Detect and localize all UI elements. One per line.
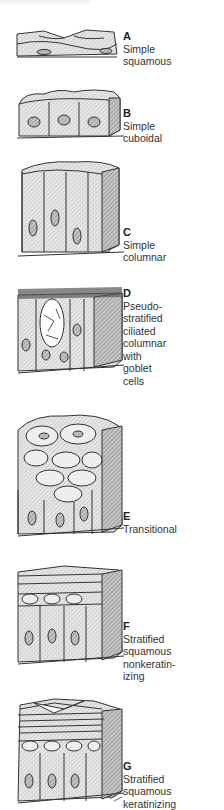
stratified-keratinizing-illustration — [14, 695, 126, 809]
label-text: Stratified squamous keratinizing — [123, 773, 176, 810]
label-text: Stratified squamous nonkeratin- izing — [123, 633, 176, 683]
label-text: Transitional — [123, 523, 177, 536]
panel-simple-columnar: C Simple columnar — [0, 160, 224, 265]
simple-squamous-illustration — [14, 26, 119, 60]
cropped-header — [0, 0, 90, 6]
label-text: Simple columnar — [123, 239, 166, 264]
label-letter: A — [123, 30, 171, 43]
stratified-nonkeratinizing-illustration — [14, 562, 124, 672]
simple-columnar-illustration — [14, 160, 124, 265]
label-text: Simple cuboidal — [123, 120, 162, 145]
pseudostratified-illustration — [14, 285, 124, 380]
panel-stratified-keratinizing: G Stratified squamous keratinizing — [0, 695, 224, 809]
label-d: D Pseudo- stratified ciliated columnar w… — [123, 287, 166, 387]
label-letter: G — [123, 760, 176, 773]
transitional-illustration — [14, 410, 124, 545]
label-b: B Simple cuboidal — [123, 107, 162, 145]
label-text: Pseudo- stratified ciliated columnar wit… — [123, 300, 166, 388]
label-a: A Simple squamous — [123, 30, 171, 68]
label-letter: F — [123, 620, 176, 633]
panel-stratified-nonkeratinizing: F Stratified squamous nonkeratin- izing — [0, 562, 224, 672]
panel-pseudostratified: D Pseudo- stratified ciliated columnar w… — [0, 285, 224, 385]
label-letter: C — [123, 226, 166, 239]
panel-simple-squamous: A Simple squamous — [0, 20, 224, 65]
label-letter: D — [123, 287, 166, 300]
panel-simple-cuboidal: B Simple cuboidal — [0, 82, 224, 142]
panel-transitional: E Transitional — [0, 410, 224, 545]
label-letter: E — [123, 510, 177, 523]
label-f: F Stratified squamous nonkeratin- izing — [123, 620, 176, 683]
label-letter: B — [123, 107, 162, 120]
label-text: Simple squamous — [123, 43, 171, 68]
label-e: E Transitional — [123, 510, 177, 535]
label-c: C Simple columnar — [123, 226, 166, 264]
simple-cuboidal-illustration — [14, 86, 124, 141]
label-g: G Stratified squamous keratinizing — [123, 760, 176, 810]
